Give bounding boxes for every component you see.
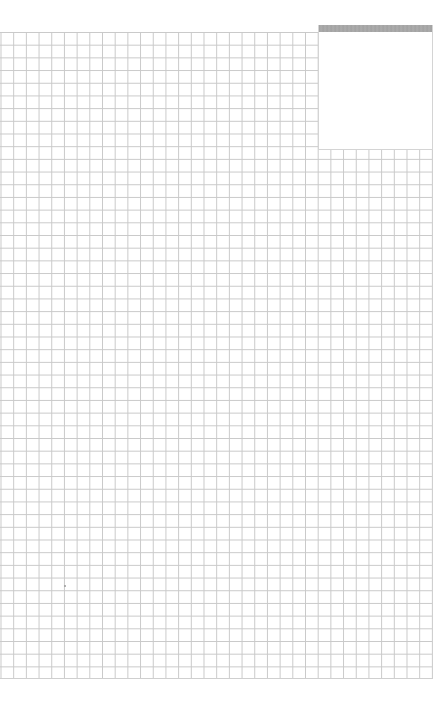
page — [0, 0, 448, 701]
panel-header-bar[interactable] — [319, 25, 432, 32]
stray-mark — [64, 585, 66, 587]
blank-panel — [318, 25, 433, 150]
